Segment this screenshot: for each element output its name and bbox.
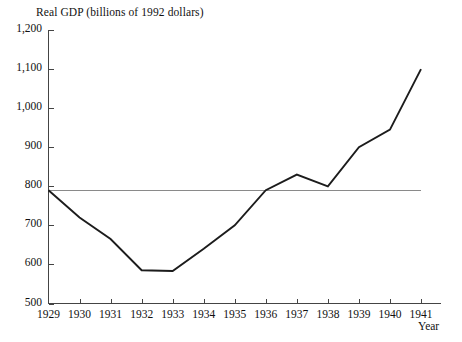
x-axis-title: Year [418,320,439,332]
y-tick-label: 1,100 [0,61,42,73]
axis-group [49,30,442,304]
x-tick-label: 1941 [401,308,441,320]
gdp-line-chart: Real GDP (billions of 1992 dollars) 5006… [0,0,462,342]
x-tick-marks [81,299,422,304]
real-gdp-series-line [49,69,422,271]
y-tick-label: 600 [0,256,42,268]
y-tick-marks [49,31,54,305]
y-tick-label: 900 [0,139,42,151]
y-tick-label: 500 [0,296,42,308]
plot-area [0,0,462,342]
y-tick-label: 800 [0,178,42,190]
y-tick-label: 1,000 [0,100,42,112]
y-tick-label: 700 [0,217,42,229]
y-tick-label: 1,200 [0,22,42,34]
